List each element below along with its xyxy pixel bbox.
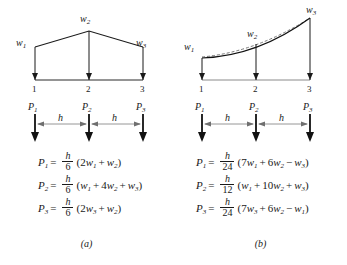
equation-b-1-equals: = [208,156,214,168]
equation-a-1-denominator: 6 [63,162,72,172]
load-label-b-w2: w2 [247,28,258,41]
equation-b-1-lhs: P1 [196,156,206,168]
operator: + [98,202,104,214]
equation-b-2-fraction: h12 [220,174,234,195]
load-arrowhead-a-3 [140,73,146,80]
equation-b-1-numerator: h [223,151,232,161]
node-label-a-1: 1 [32,84,37,94]
term-var: w2 [273,156,284,168]
paren-close: ) [305,156,309,168]
figure-panel-b: w1 w2 w3 1 2 3 P1 P2 P3 [174,0,347,265]
equation-b-1: P1=h24(7w1+6w2−w3) [174,150,347,173]
node-label-a-2: 2 [86,84,91,94]
dimension-a-left: h [37,112,87,127]
term-var: w1 [294,202,305,214]
term-var: w3 [247,202,258,214]
force-arrow-b-1 [198,114,206,142]
term-var: w2 [107,156,118,168]
paren-close: ) [305,202,309,214]
equation-block-b: P1=h24(7w1+6w2−w3) P2=h12(w1+10w2+w3) P3… [174,150,347,219]
term-var: w3 [86,202,97,214]
equation-a-3-equals: = [50,202,56,214]
load-label-a-w3: w3 [136,37,147,50]
node-label-b-2: 2 [253,84,258,94]
equation-a-1: P1=h6(2w1+w2) [0,150,173,173]
equation-a-3-fraction: h6 [62,197,73,218]
force-label-b-P1: P1 [194,101,205,114]
equation-b-2-numerator: h [223,174,232,184]
panel-caption-b: (b) [174,238,347,249]
term-var: w1 [241,179,252,191]
equation-a-2-lhs: P2 [38,179,48,191]
equation-a-3-lhs: P3 [38,202,48,214]
force-label-a-P3: P3 [135,101,146,114]
equation-b-2-denominator: 12 [220,185,234,195]
operator: + [93,179,99,191]
equation-b-3-lhs: P3 [196,202,206,214]
equation-a-1-equals: = [50,156,56,168]
dimension-label-a-h1: h [58,112,63,123]
load-arrowhead-b-2 [253,73,259,80]
equation-a-1-numerator: h [63,151,72,161]
node-label-b-1: 1 [199,84,204,94]
load-label-b-w1: w1 [184,41,194,54]
term-var: w1 [80,179,91,191]
term-var: w3 [294,156,305,168]
load-arrowhead-b-1 [199,73,205,80]
load-label-a-w1: w1 [16,37,26,50]
force-label-b-P2: P2 [248,101,259,114]
paren-close: ) [139,179,143,191]
equation-b-2-lhs: P2 [196,179,206,191]
dimension-label-b-h2: h [279,112,284,123]
equation-a-2-fraction: h6 [62,174,73,195]
operator: + [286,179,292,191]
term-var: w2 [273,202,284,214]
dimension-b-left: h [204,112,254,127]
equation-block-a: P1=h6(2w1+w2) P2=h6(w1+4w2+w3) P3=h6(2w3… [0,150,173,219]
load-label-b-w3: w3 [306,4,317,17]
equation-a-2-equals: = [50,179,56,191]
term-var: w3 [128,179,139,191]
paren-close: ) [305,179,309,191]
equation-a-1-lhs: P1 [38,156,48,168]
term-var: w1 [86,156,97,168]
equation-a-3: P3=h6(2w3+w2) [0,196,173,219]
operator: + [120,179,126,191]
equation-b-3: P3=h24(7w3+6w2−w1) [174,196,347,219]
force-label-a-P2: P2 [81,101,92,114]
force-arrow-a-1 [31,114,39,142]
paren-close: ) [118,156,122,168]
force-arrow-a-3 [139,114,147,142]
dimension-label-b-h1: h [225,112,230,123]
force-arrow-b-3 [306,114,314,142]
panel-caption-a: (a) [0,238,173,249]
force-label-b-P3: P3 [302,101,313,114]
operator: − [286,156,292,168]
figure-page: w1 w2 w3 1 2 3 P1 P2 P3 [0,0,347,265]
dimension-label-a-h2: h [112,112,117,123]
coef: 10 [262,179,273,191]
node-label-a-3: 3 [140,84,145,94]
operator: + [98,156,104,168]
load-diagram-b: w1 w2 w3 1 2 3 P1 P2 P3 [174,0,347,145]
equation-a-2: P2=h6(w1+4w2+w3) [0,173,173,196]
force-arrow-b-2 [252,114,260,142]
equation-b-3-fraction: h24 [220,197,234,218]
equation-b-2: P2=h12(w1+10w2+w3) [174,173,347,196]
equation-b-1-fraction: h24 [220,151,234,172]
equation-a-3-numerator: h [63,197,72,207]
equation-a-2-numerator: h [63,174,72,184]
force-label-a-P1: P1 [27,101,38,114]
equation-b-3-equals: = [208,202,214,214]
load-diagram-a: w1 w2 w3 1 2 3 P1 P2 P3 [0,0,173,145]
dimension-b-right: h [258,112,308,127]
dimension-a-right: h [91,112,141,127]
load-arrowhead-a-1 [32,73,38,80]
equation-a-3-denominator: 6 [63,208,72,218]
operator: − [286,202,292,214]
equation-b-1-denominator: 24 [220,162,234,172]
load-arrowhead-a-2 [86,73,92,80]
load-arrowhead-b-3 [307,73,313,80]
equation-b-2-equals: = [208,179,214,191]
equation-b-3-numerator: h [223,197,232,207]
